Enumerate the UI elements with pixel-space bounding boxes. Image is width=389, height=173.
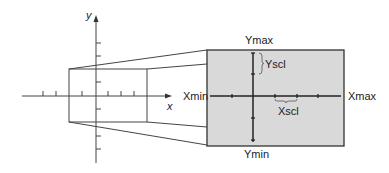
cartesian-plane	[22, 19, 168, 163]
x-axis-label: x	[166, 100, 173, 112]
ymax-label: Ymax	[245, 34, 274, 46]
xscl-label: Xscl	[278, 105, 299, 117]
xmin-label: Xmin	[183, 90, 208, 102]
ymin-label: Ymin	[244, 148, 269, 160]
x-axis-ticks	[43, 91, 134, 96]
y-axis-label: y	[85, 9, 93, 21]
x-axis-arrow-icon	[165, 94, 172, 99]
xmax-label: Xmax	[348, 90, 377, 102]
viewing-window-diagram: x y Yscl Xscl Ymax Ymin Xmin Xmax	[0, 0, 389, 173]
y-axis-arrow-icon	[94, 15, 99, 22]
yscl-label: Yscl	[265, 58, 286, 70]
